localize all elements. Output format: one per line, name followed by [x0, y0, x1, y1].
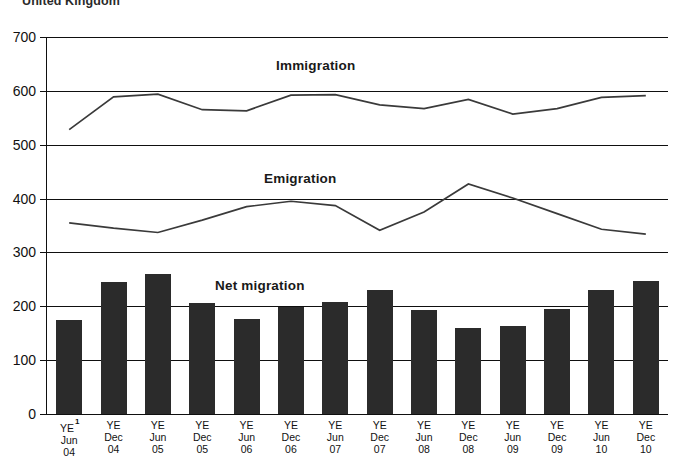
x-axis-label-7: YEDec07 — [358, 419, 402, 456]
migration-chart: United Kingdom 0100200300400500600700 Im… — [0, 0, 674, 469]
x-axis-label-2: YEJun05 — [136, 419, 180, 456]
x-axis-label-11: YEDec09 — [535, 419, 579, 456]
x-axis-label-1: YEDec04 — [91, 419, 135, 456]
series-label-net-migration: Net migration — [215, 278, 305, 293]
x-axis-label-3: YEDec05 — [180, 419, 224, 456]
chart-title: United Kingdom — [22, 0, 120, 8]
y-tick-mark-100 — [40, 360, 47, 361]
y-tick-mark-700 — [40, 37, 47, 38]
x-axis-label-9: YEDec08 — [446, 419, 490, 456]
y-tick-label-200: 200 — [0, 298, 36, 314]
y-tick-label-300: 300 — [0, 244, 36, 260]
footnote-marker: 1 — [75, 417, 79, 426]
y-tick-label-700: 700 — [0, 29, 36, 45]
x-axis-labels: YE1Jun04YEDec04YEJun05YEDec05YEJun06YEDe… — [47, 419, 668, 467]
y-tick-mark-200 — [40, 306, 47, 307]
line-emigration — [69, 184, 646, 234]
plot-area — [47, 37, 668, 414]
series-label-emigration: Emigration — [264, 171, 337, 186]
x-axis-label-12: YEJun10 — [579, 419, 623, 456]
x-axis-label-5: YEDec06 — [269, 419, 313, 456]
y-tick-label-500: 500 — [0, 137, 36, 153]
x-axis-label-6: YEJun07 — [313, 419, 357, 456]
y-tick-mark-300 — [40, 252, 47, 253]
y-tick-label-100: 100 — [0, 352, 36, 368]
line-immigration — [69, 94, 646, 130]
y-tick-mark-500 — [40, 145, 47, 146]
y-tick-mark-400 — [40, 199, 47, 200]
y-tick-label-400: 400 — [0, 191, 36, 207]
y-tick-mark-600 — [40, 91, 47, 92]
series-label-immigration: Immigration — [276, 58, 355, 73]
x-axis-label-4: YEJun06 — [224, 419, 268, 456]
y-tick-label-0: 0 — [0, 406, 36, 422]
y-tick-label-600: 600 — [0, 83, 36, 99]
y-tick-mark-0 — [40, 414, 47, 415]
x-axis-label-0: YE1Jun04 — [47, 419, 91, 458]
line-series-group — [47, 37, 668, 414]
x-axis-label-13: YEDec10 — [624, 419, 668, 456]
x-axis-line — [47, 414, 668, 415]
x-axis-label-10: YEJun09 — [491, 419, 535, 456]
x-axis-label-8: YEJun08 — [402, 419, 446, 456]
